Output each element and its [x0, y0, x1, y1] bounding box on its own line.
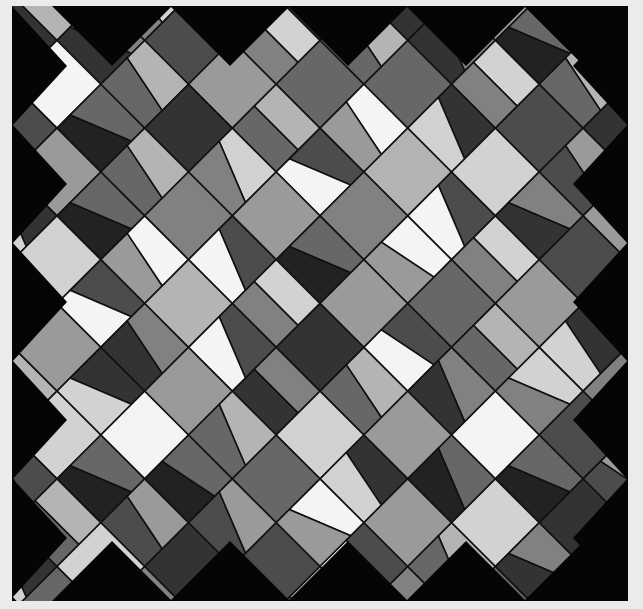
mosaic-artwork	[12, 6, 628, 601]
mosaic-svg	[12, 6, 628, 601]
